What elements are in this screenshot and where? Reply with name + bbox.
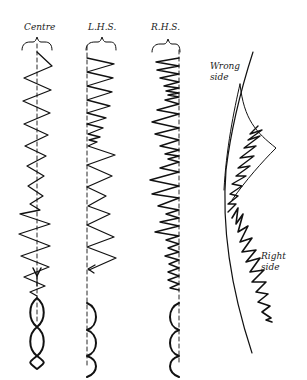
fabric-edge-diagram bbox=[224, 52, 276, 353]
twisted-cord bbox=[30, 298, 44, 369]
scallop-cord bbox=[170, 303, 179, 377]
brace-icon bbox=[152, 39, 180, 52]
stitch-diagram bbox=[0, 0, 307, 380]
lhs-stitch bbox=[86, 37, 116, 377]
brace-icon bbox=[86, 37, 116, 50]
scallop-cord bbox=[87, 303, 96, 377]
rhs-stitch bbox=[150, 39, 180, 377]
centre-stitch bbox=[19, 37, 52, 369]
